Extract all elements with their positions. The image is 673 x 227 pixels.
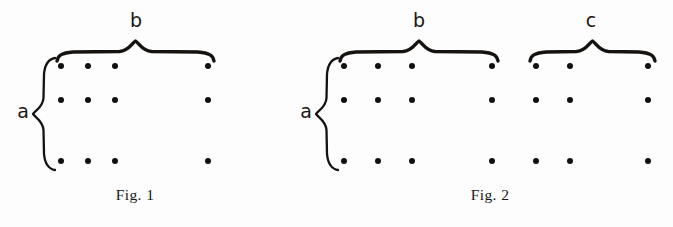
lattice-dot	[205, 63, 211, 69]
lattice-dot	[645, 63, 651, 69]
figure-caption: Fig. 1	[116, 186, 155, 203]
lattice-dot	[567, 63, 573, 69]
horizontal-brace-b	[340, 41, 498, 61]
vertical-brace	[316, 58, 338, 170]
lattice-dot	[85, 97, 91, 103]
lattice-dot	[205, 97, 211, 103]
lattice-dot	[409, 63, 415, 69]
lattice-dot	[645, 97, 651, 103]
dimension-label-c: c	[586, 9, 596, 31]
lattice-dot	[205, 158, 211, 164]
fig-1-group: abFig. 1	[17, 9, 214, 203]
lattice-dot	[375, 158, 381, 164]
dimension-label-a: a	[17, 100, 29, 122]
lattice-dot	[341, 97, 347, 103]
lattice-dot	[58, 97, 64, 103]
fig-2-group: abcFig. 2	[300, 9, 655, 203]
dimension-label-a: a	[300, 100, 312, 122]
lattice-dot	[533, 63, 539, 69]
lattice-dot	[341, 63, 347, 69]
figure-page: abFig. 1abcFig. 2	[0, 0, 673, 227]
lattice-dot	[533, 97, 539, 103]
lattice-dot	[112, 63, 118, 69]
lattice-dot	[533, 158, 539, 164]
lattice-dot	[567, 158, 573, 164]
dimension-label-b: b	[130, 9, 142, 31]
lattice-dot	[112, 158, 118, 164]
lattice-dot	[85, 63, 91, 69]
lattice-dot	[645, 158, 651, 164]
lattice-dot	[489, 158, 495, 164]
lattice-dot	[112, 97, 118, 103]
lattice-dot	[375, 63, 381, 69]
lattice-dot	[409, 158, 415, 164]
lattice-diagram-canvas: abFig. 1abcFig. 2	[0, 0, 673, 227]
lattice-dot	[58, 63, 64, 69]
lattice-dot	[489, 63, 495, 69]
figure-caption: Fig. 2	[471, 186, 510, 203]
lattice-dot	[489, 97, 495, 103]
lattice-dot	[341, 158, 347, 164]
dimension-label-b: b	[413, 9, 425, 31]
lattice-dot	[58, 158, 64, 164]
horizontal-brace-c	[530, 41, 655, 61]
lattice-dot	[567, 97, 573, 103]
lattice-dot	[375, 97, 381, 103]
horizontal-brace-b	[57, 41, 214, 61]
lattice-dot	[409, 97, 415, 103]
vertical-brace	[33, 58, 55, 170]
lattice-dot	[85, 158, 91, 164]
